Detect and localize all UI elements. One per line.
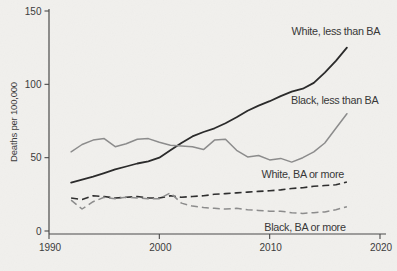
series-label-black-ba-or-more: Black, BA or more bbox=[264, 221, 346, 233]
scanned-chart-page: 0501001501990200020102020 Deaths per 100… bbox=[0, 0, 397, 271]
x-tick-label-1990: 1990 bbox=[39, 242, 62, 253]
mortality-line-chart: 0501001501990200020102020 Deaths per 100… bbox=[0, 0, 397, 271]
x-tick-label-2010: 2010 bbox=[260, 242, 283, 253]
x-tick-label-2000: 2000 bbox=[149, 242, 172, 253]
series-label-black-less-than-ba: Black, less than BA bbox=[291, 94, 379, 106]
y-tick-label-100: 100 bbox=[25, 79, 42, 90]
y-axis-title: Deaths per 100,000 bbox=[8, 82, 19, 162]
y-tick-label-0: 0 bbox=[36, 226, 42, 237]
series-label-white-less-than-ba: White, less than BA bbox=[292, 25, 382, 37]
series-label-white-ba-or-more: White, BA or more bbox=[262, 168, 345, 180]
x-tick-label-2020: 2020 bbox=[370, 242, 393, 253]
y-tick-label-50: 50 bbox=[30, 152, 42, 163]
y-tick-label-150: 150 bbox=[25, 6, 42, 17]
